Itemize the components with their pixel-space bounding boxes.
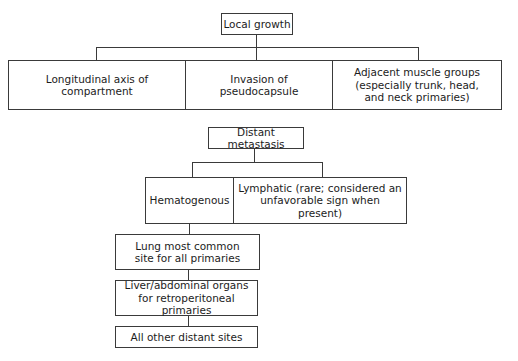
- connector-line: [188, 316, 189, 326]
- connector-line: [96, 47, 97, 60]
- connector-line: [192, 162, 323, 163]
- node-longitudinal-axis: Longitudinal axis of compartment: [9, 61, 185, 109]
- node-other-distant-sites: All other distant sites: [115, 326, 258, 348]
- node-lymphatic: Lymphatic (rare; considered an unfavorab…: [233, 178, 406, 223]
- connector-line: [254, 149, 255, 162]
- node-lung-site: Lung most common site for all primaries: [115, 234, 260, 270]
- node-label: Longitudinal axis of compartment: [13, 73, 181, 98]
- node-adjacent-muscle-groups: Adjacent muscle groups (especially trunk…: [332, 61, 501, 109]
- node-label: Local growth: [223, 18, 290, 31]
- connector-line: [189, 224, 190, 234]
- node-label: Invasion of pseudocapsule: [190, 73, 328, 98]
- connector-line: [192, 162, 193, 177]
- connector-line: [256, 35, 257, 62]
- node-label: Distant metastasis: [209, 126, 303, 151]
- node-label: All other distant sites: [131, 331, 243, 344]
- node-label: Lung most common site for all primaries: [126, 240, 249, 265]
- node-local-growth: Local growth: [221, 13, 293, 35]
- node-liver-abdominal-site: Liver/abdominal organs for retroperitone…: [115, 280, 258, 316]
- node-pseudocapsule-invasion: Invasion of pseudocapsule: [185, 61, 332, 109]
- node-distant-metastasis: Distant metastasis: [208, 127, 304, 149]
- node-label: Hematogenous: [150, 194, 230, 207]
- connector-line: [96, 47, 418, 48]
- node-hematogenous: Hematogenous: [146, 178, 233, 223]
- distant-metastasis-children: Hematogenous Lymphatic (rare; considered…: [145, 177, 407, 224]
- node-label: Liver/abdominal organs for retroperitone…: [116, 279, 257, 317]
- node-label: Lymphatic (rare; considered an unfavorab…: [238, 182, 402, 220]
- local-growth-children: Longitudinal axis of compartment Invasio…: [8, 60, 502, 110]
- node-label: Adjacent muscle groups (especially trunk…: [345, 66, 489, 104]
